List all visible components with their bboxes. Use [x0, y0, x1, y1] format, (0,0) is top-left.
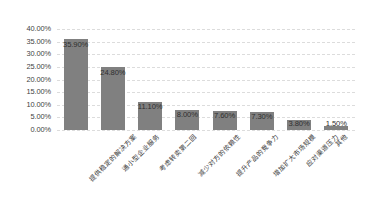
- bar-slot: 8.00%: [169, 29, 206, 130]
- x-axis-tick-label: 其他: [334, 134, 349, 149]
- bar-value-label: 7.60%: [214, 112, 235, 120]
- x-axis: 提供稳定的解决方案通小型企业服务考虑转卖第二回减少对方的依赖性提升产品的竞争力增…: [57, 130, 355, 214]
- bar-value-label: 35.90%: [63, 41, 88, 49]
- bar-value-label: 3.80%: [289, 120, 310, 128]
- bar-slot: 3.80%: [281, 29, 318, 130]
- y-axis-tick-label: 25.00%: [27, 63, 51, 70]
- x-axis-slot: 其他: [318, 130, 355, 214]
- x-axis-slot: 增加扩大市场规模: [243, 130, 280, 214]
- bar-slot: 24.80%: [94, 29, 131, 130]
- bar-value-label: 8.00%: [177, 111, 198, 119]
- bar-slot: 7.30%: [243, 29, 280, 130]
- bar-slot: 1.50%: [318, 29, 355, 130]
- x-axis-slot: 提升产品的竞争力: [206, 130, 243, 214]
- x-axis-slot: 考虑转卖第二回: [132, 130, 169, 214]
- bar-chart: 40.00%35.00%30.00%25.00%20.00%15.00%10.0…: [0, 0, 368, 220]
- y-axis-tick-label: 15.00%: [27, 88, 51, 95]
- y-axis-tick-label: 5.00%: [31, 114, 51, 121]
- y-axis-tick-label: 35.00%: [27, 38, 51, 45]
- x-axis-slot: 减少对方的依赖性: [169, 130, 206, 214]
- y-axis-tick-label: 0.00%: [31, 126, 51, 133]
- bar-value-label: 24.80%: [100, 69, 125, 77]
- bar-slot: 35.90%: [57, 29, 94, 130]
- y-axis-tick-label: 20.00%: [27, 76, 51, 83]
- bar-value-label: 11.10%: [138, 103, 163, 111]
- x-axis-slot: 提供稳定的解决方案: [57, 130, 94, 214]
- bar-slot: 7.60%: [206, 29, 243, 130]
- bar-series: 35.90%24.80%11.10%8.00%7.60%7.30%3.80%1.…: [57, 29, 355, 130]
- y-axis: 40.00%35.00%30.00%25.00%20.00%15.00%10.0…: [0, 29, 54, 130]
- y-axis-tick-label: 40.00%: [27, 25, 51, 32]
- y-axis-tick-label: 10.00%: [27, 101, 51, 108]
- y-axis-tick-label: 30.00%: [27, 51, 51, 58]
- bar-value-label: 7.30%: [251, 113, 272, 121]
- plot-area: 35.90%24.80%11.10%8.00%7.60%7.30%3.80%1.…: [57, 29, 355, 130]
- x-axis-slot: 通小型企业服务: [94, 130, 131, 214]
- x-axis-slot: 应对渠道压力: [281, 130, 318, 214]
- bar-slot: 11.10%: [132, 29, 169, 130]
- bar[interactable]: [64, 39, 88, 130]
- bar-value-label: 1.50%: [326, 120, 347, 128]
